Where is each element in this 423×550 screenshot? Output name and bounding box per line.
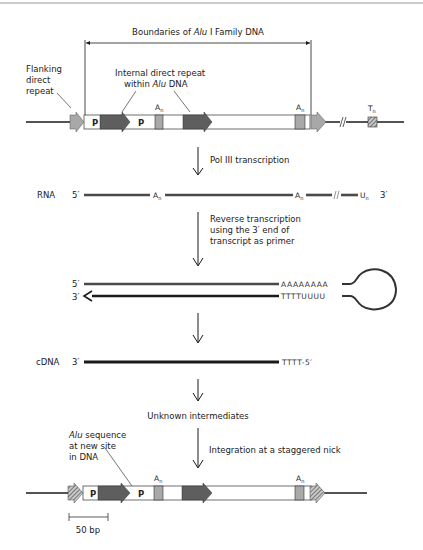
hairpin-primer-complex: 5′ 3′ AAAAAAAA TTTTUUUU: [72, 269, 396, 309]
poly-a-box-new-2: [295, 486, 304, 500]
poly-a-box-2: [295, 115, 305, 129]
flanking-direct-repeat-label: Flanking direct repeat: [26, 64, 71, 108]
svg-text:AAAAAAAA: AAAAAAAA: [281, 280, 329, 289]
hairpin-loop: [350, 269, 396, 309]
flanking-repeat-arrow-right: [311, 112, 326, 132]
svg-text:in DNA: in DNA: [69, 452, 98, 462]
break-mark: [340, 117, 346, 127]
poly-t-box: [368, 117, 377, 127]
cdna-strand: cDNA 3′ TTTT-5′: [36, 357, 313, 367]
svg-text:TTTT-5′: TTTT-5′: [281, 358, 313, 367]
svg-text:3′: 3′: [72, 292, 79, 302]
alu-new-site-label: Alu sequence at new site in DNA: [68, 430, 132, 486]
genomic-dna-track: P P An An Tn: [26, 103, 404, 132]
an-label-1: An: [155, 103, 163, 113]
svg-text:An: An: [153, 191, 161, 201]
svg-text:An: An: [154, 474, 162, 484]
svg-text:Internal direct repeat: Internal direct repeat: [115, 68, 206, 78]
alu-retrotransposition-diagram: Boundaries of Alu I Family DNA Flanking …: [0, 0, 423, 550]
svg-text:using the 3′ end of: using the 3′ end of: [210, 225, 290, 235]
internal-direct-repeat-label: Internal direct repeat within Alu DNA: [115, 68, 206, 112]
svg-text:Un: Un: [360, 191, 369, 201]
svg-text:transcript as primer: transcript as primer: [210, 236, 295, 246]
integrated-dna-track: P P An An: [26, 474, 367, 503]
cdna-label: cDNA: [36, 357, 60, 367]
svg-text:P: P: [138, 489, 144, 499]
svg-text:50 bp: 50 bp: [76, 525, 100, 535]
poly-a-box-new-1: [154, 486, 163, 500]
svg-text:TTTTUUUU: TTTTUUUU: [280, 292, 326, 301]
svg-text:An: An: [295, 191, 303, 201]
svg-text:P: P: [90, 489, 96, 499]
svg-text:Alu sequence: Alu sequence: [68, 430, 126, 440]
new-flanking-repeat-left: [68, 483, 83, 503]
rna-label: RNA: [37, 190, 55, 200]
svg-text:5′: 5′: [72, 279, 79, 289]
boundary-label: Boundaries of Alu I Family DNA: [132, 27, 264, 37]
svg-text:5′: 5′: [72, 190, 79, 200]
an-label-2: An: [296, 103, 304, 113]
svg-text:Reverse transcription: Reverse transcription: [210, 214, 301, 224]
svg-text:Flanking: Flanking: [26, 64, 62, 74]
integration-label: Integration at a staggered nick: [209, 445, 341, 455]
tn-label: Tn: [367, 104, 376, 114]
rna-strand: RNA 5′ An An Un 3′: [37, 190, 387, 201]
scale-bar: 50 bp: [69, 513, 108, 535]
svg-text:3′: 3′: [72, 357, 79, 367]
flanking-repeat-arrow-left: [70, 112, 84, 132]
svg-text:P: P: [138, 118, 144, 128]
svg-text:repeat: repeat: [26, 86, 54, 96]
unknown-intermediates-label: Unknown intermediates: [147, 411, 249, 421]
reverse-transcription-label: Reverse transcription using the 3′ end o…: [210, 214, 301, 246]
pol-iii-label: Pol III transcription: [210, 155, 289, 165]
svg-text:within Alu DNA: within Alu DNA: [124, 79, 188, 89]
svg-text:3′: 3′: [380, 190, 387, 200]
svg-text:at new site: at new site: [69, 441, 116, 451]
svg-text:P: P: [92, 118, 98, 128]
svg-text:An: An: [296, 474, 304, 484]
svg-text:direct: direct: [26, 75, 51, 85]
poly-a-box-1: [155, 115, 163, 129]
new-flanking-repeat-right: [310, 483, 325, 503]
